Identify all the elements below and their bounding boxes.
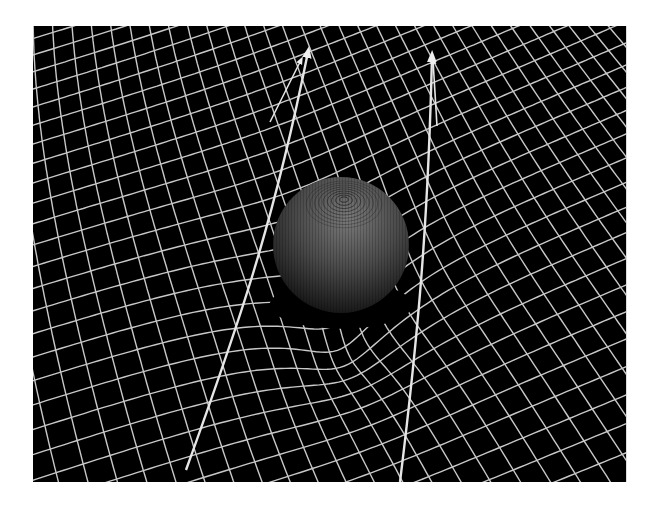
mass-sphere bbox=[270, 177, 413, 329]
spacetime-grid-canvas bbox=[33, 26, 626, 482]
spacetime-illustration bbox=[33, 26, 627, 482]
right-secondary-arrow bbox=[433, 60, 437, 126]
left-secondary-arrow bbox=[270, 60, 301, 122]
